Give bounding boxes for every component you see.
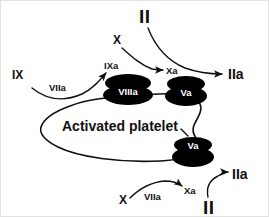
complex-viiia-label: VIIIa bbox=[118, 86, 138, 97]
complex-viiia[interactable]: VIIIa bbox=[103, 74, 153, 105]
tick-va-lower-link bbox=[181, 129, 188, 136]
label-factor-ixa: IXa bbox=[104, 60, 119, 71]
label-factor-xa-lower: Xa bbox=[184, 185, 196, 196]
complex-va-upper-label: Va bbox=[180, 87, 192, 98]
complex-va-upper[interactable]: Va bbox=[165, 76, 207, 106]
image-border bbox=[1, 1, 269, 217]
label-factor-x-upper: X bbox=[113, 33, 121, 47]
coagulation-diagram-svg: VIIIa Va Va IX VIIa IXa X Xa II IIa Acti… bbox=[0, 0, 269, 217]
label-activated-platelet: Activated platelet bbox=[62, 118, 178, 134]
arrow-ii-to-iia-lower bbox=[207, 172, 228, 197]
label-viia-lower: VIIa bbox=[144, 191, 162, 202]
label-viia-upper: VIIa bbox=[49, 82, 67, 93]
arrow-ii-to-iia-upper bbox=[148, 28, 222, 74]
complex-va-lower[interactable]: Va bbox=[172, 137, 214, 167]
label-factor-iia-lower: IIa bbox=[232, 166, 248, 182]
label-factor-ix: IX bbox=[12, 68, 23, 82]
diagram-canvas: VIIIa Va Va IX VIIa IXa X Xa II IIa Acti… bbox=[0, 0, 269, 217]
label-factor-xa-upper: Xa bbox=[166, 65, 178, 76]
label-factor-iia-upper: IIa bbox=[228, 66, 244, 82]
label-factor-x-lower: X bbox=[119, 193, 127, 207]
complex-va-lower-label: Va bbox=[187, 140, 199, 151]
arrow-x-to-xa-upper bbox=[122, 48, 163, 70]
label-factor-ii-upper: II bbox=[139, 6, 151, 27]
label-factor-ii-lower: II bbox=[203, 197, 215, 217]
arrow-ix-to-ixa bbox=[32, 73, 106, 99]
